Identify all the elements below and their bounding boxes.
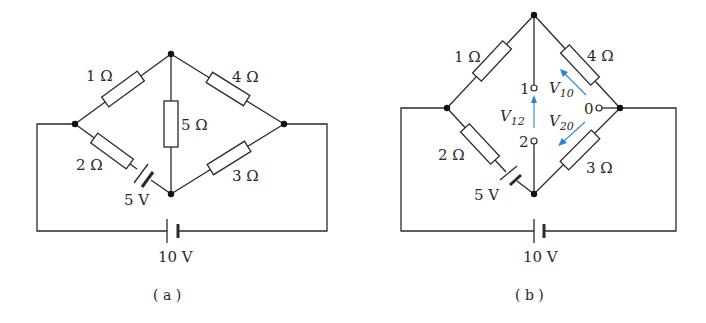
node-right-b bbox=[617, 105, 623, 111]
node-bottom-b bbox=[531, 191, 537, 197]
battery-10v-b bbox=[534, 219, 544, 243]
label-v10: V10 bbox=[549, 79, 574, 100]
label-2ohm-b: 2 Ω bbox=[438, 146, 465, 164]
label-1ohm-b: 1 Ω bbox=[454, 48, 481, 66]
resistor-2ohm-b bbox=[461, 124, 500, 164]
caption-a: ( a ) bbox=[153, 287, 181, 303]
label-4ohm-a: 4 Ω bbox=[232, 68, 259, 86]
label-2ohm-a: 2 Ω bbox=[76, 156, 103, 174]
node-top-b bbox=[531, 12, 537, 18]
label-terminal-2: 2 bbox=[519, 133, 529, 151]
node-left-a bbox=[72, 121, 78, 127]
battery-5v-a bbox=[134, 164, 153, 187]
label-5v-a: 5 V bbox=[124, 191, 150, 209]
terminal-2 bbox=[531, 138, 537, 144]
node-left-b bbox=[444, 105, 450, 111]
arrow-v12 bbox=[531, 95, 537, 128]
battery-10v-a bbox=[167, 219, 178, 243]
label-terminal-1: 1 bbox=[520, 80, 530, 98]
panel-b: 1 Ω 4 Ω 2 Ω 3 Ω 5 V 10 V 1 2 0 V12 V10 V… bbox=[401, 12, 676, 303]
label-5v-b: 5 V bbox=[474, 186, 500, 204]
label-10v-b: 10 V bbox=[523, 248, 559, 266]
node-right-a bbox=[281, 121, 287, 127]
terminal-0 bbox=[596, 105, 602, 111]
terminal-1 bbox=[531, 85, 537, 91]
label-3ohm-b: 3 Ω bbox=[586, 159, 613, 177]
label-5ohm-a: 5 Ω bbox=[181, 116, 208, 134]
label-v12: V12 bbox=[500, 107, 525, 128]
label-3ohm-a: 3 Ω bbox=[232, 167, 259, 185]
circuit-figure: 1 Ω 4 Ω 5 Ω 2 Ω 3 Ω 5 V 10 V ( a ) bbox=[0, 0, 706, 323]
caption-b: ( b ) bbox=[515, 287, 544, 303]
panel-a: 1 Ω 4 Ω 5 Ω 2 Ω 3 Ω 5 V 10 V ( a ) bbox=[37, 51, 327, 303]
label-10v-a: 10 V bbox=[158, 248, 194, 266]
label-1ohm-a: 1 Ω bbox=[86, 67, 113, 85]
node-top-a bbox=[168, 51, 174, 57]
resistor-5ohm-a bbox=[164, 101, 178, 147]
label-terminal-0: 0 bbox=[584, 100, 594, 118]
label-v20: V20 bbox=[549, 112, 574, 133]
node-bottom-a bbox=[168, 191, 174, 197]
label-4ohm-b: 4 Ω bbox=[587, 47, 614, 65]
